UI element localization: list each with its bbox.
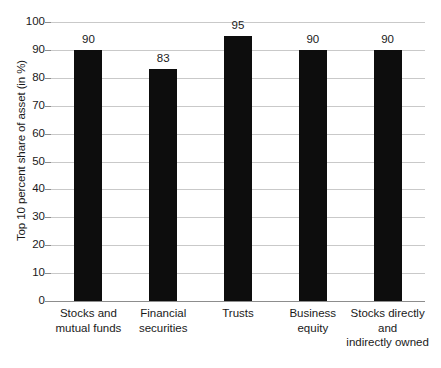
bar[interactable] xyxy=(299,50,327,301)
bar-chart-figure: Top 10 percent share of asset (in %) 010… xyxy=(0,0,441,368)
y-tick-label: 30 xyxy=(1,211,45,223)
bar[interactable] xyxy=(224,36,252,301)
bar-value-label: 90 xyxy=(288,34,338,46)
bar-value-label: 90 xyxy=(363,34,413,46)
plot-area: 9083959090 xyxy=(51,22,425,301)
y-tick-label: 10 xyxy=(1,267,45,279)
x-axis-label-line: securities xyxy=(116,321,210,336)
y-tick-label: 50 xyxy=(1,156,45,168)
x-axis-label-line: indirectly owned xyxy=(341,335,435,350)
bar-value-label: 95 xyxy=(213,20,263,32)
y-tick-label: 40 xyxy=(1,183,45,195)
y-tick-label: 70 xyxy=(1,100,45,112)
x-axis-label: Stocks directlyandindirectly owned xyxy=(341,306,435,350)
x-axis-category-labels: Stocks andmutual fundsFinancialsecuritie… xyxy=(51,306,431,364)
x-axis-label-line: Stocks directly xyxy=(341,306,435,321)
y-tick-label: 100 xyxy=(1,16,45,28)
bar-value-label: 90 xyxy=(63,34,113,46)
bar[interactable] xyxy=(149,69,177,301)
bar[interactable] xyxy=(374,50,402,301)
y-tick-label: 60 xyxy=(1,128,45,140)
y-axis-tick-labels: 0102030405060708090100 xyxy=(0,22,45,301)
axis-baseline xyxy=(45,301,425,302)
y-tick-label: 20 xyxy=(1,239,45,251)
bar-value-label: 83 xyxy=(138,53,188,65)
x-axis-label-line: and xyxy=(341,321,435,336)
y-tick-label: 0 xyxy=(1,295,45,307)
bar[interactable] xyxy=(74,50,102,301)
y-tick-label: 80 xyxy=(1,72,45,84)
y-tick-label: 90 xyxy=(1,44,45,56)
